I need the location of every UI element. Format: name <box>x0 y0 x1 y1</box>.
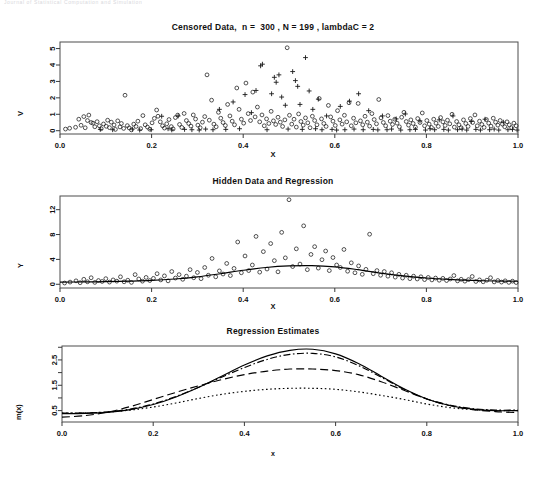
data-point-circle <box>258 270 262 274</box>
data-point-circle <box>242 121 246 125</box>
data-point-circle <box>333 124 337 128</box>
cropped-header-text: Journal of Statistical Computation and S… <box>4 0 142 5</box>
data-point-circle <box>316 266 320 270</box>
data-point-circle <box>331 256 335 260</box>
data-point-circle <box>237 107 241 111</box>
data-point-circle <box>201 120 205 124</box>
data-point-circle <box>261 250 265 254</box>
x-tick-label: 0.0 <box>55 141 65 150</box>
data-point-circle <box>116 119 120 123</box>
data-point-circle <box>320 258 324 262</box>
data-point-circle <box>308 126 312 130</box>
data-point-circle <box>269 109 273 113</box>
x-axis-label-hidden: X <box>0 302 546 311</box>
data-point-circle <box>182 112 186 116</box>
data-point-circle <box>203 266 207 270</box>
data-point-circle <box>205 73 209 77</box>
data-point-circle <box>132 122 136 126</box>
data-point-circle <box>365 120 369 124</box>
data-point-circle <box>272 259 276 263</box>
data-point-circle <box>411 122 415 126</box>
y-tick-label: 0 <box>48 129 57 133</box>
data-point-circle <box>155 108 159 112</box>
data-point-circle <box>302 224 306 228</box>
data-point-circle <box>232 267 236 271</box>
y-tick-label: 8 <box>48 232 57 236</box>
plot-title-hidden: Hidden Data and Regression <box>0 176 546 186</box>
panel-regression-estimates: Regression Estimates m(x) 0.00.20.40.60.… <box>0 324 546 476</box>
data-point-circle <box>95 120 99 124</box>
data-point-circle <box>228 274 232 278</box>
data-point-circle <box>386 114 390 118</box>
data-point-circle <box>342 248 346 252</box>
data-point-circle <box>191 113 195 117</box>
data-point-circle <box>299 120 303 124</box>
data-point-circle <box>155 272 159 276</box>
data-point-circle <box>324 125 328 129</box>
data-point-circle <box>301 123 305 127</box>
data-point-circle <box>400 115 404 119</box>
data-point-circle <box>123 93 127 97</box>
data-point-circle <box>482 126 486 130</box>
data-point-circle <box>375 122 379 126</box>
data-point-circle <box>214 275 218 279</box>
data-point-circle <box>514 124 518 128</box>
data-point-circle <box>83 126 87 130</box>
data-point-circle <box>409 118 413 122</box>
data-point-circle <box>152 116 156 120</box>
data-point-circle <box>357 264 361 268</box>
data-point-circle <box>267 122 271 126</box>
data-point-circle <box>294 247 298 251</box>
data-point-circle <box>258 120 262 124</box>
data-point-circle <box>278 120 282 124</box>
plot-title-censored: Censored Data, n = 300 , N = 199 , lambd… <box>0 22 546 32</box>
data-point-circle <box>281 125 285 129</box>
data-point-circle <box>292 117 296 121</box>
data-point-circle <box>253 115 257 119</box>
data-point-circle <box>287 198 291 202</box>
data-point-circle <box>104 277 108 281</box>
data-point-circle <box>408 277 412 281</box>
data-point-circle <box>446 118 450 122</box>
data-point-circle <box>285 46 289 50</box>
data-point-circle <box>210 257 214 261</box>
data-point-circle <box>230 119 234 123</box>
data-point-circle <box>470 275 474 279</box>
data-point-circle <box>420 111 424 115</box>
data-point-circle <box>177 273 181 277</box>
data-point-circle <box>441 120 445 124</box>
x-tick-label: 0.4 <box>239 429 250 438</box>
data-point-circle <box>87 113 91 117</box>
y-tick-label: 0.5 <box>50 405 59 415</box>
x-tick-label: 1.0 <box>513 141 523 150</box>
data-point-circle <box>167 118 171 122</box>
data-point-circle <box>244 81 248 85</box>
x-tick-label: 1.0 <box>513 429 523 438</box>
data-point-circle <box>163 274 167 278</box>
x-tick-label: 0.2 <box>148 429 158 438</box>
data-point-circle <box>336 109 340 113</box>
data-point-circle <box>194 117 198 121</box>
plot-area-censored: 0.00.20.40.60.81.0012345 <box>0 36 546 164</box>
data-point-circle <box>223 124 227 128</box>
x-tick-label: 0.6 <box>330 429 340 438</box>
data-point-circle <box>188 268 192 272</box>
figure-page: Journal of Statistical Computation and S… <box>0 0 546 488</box>
x-tick-label: 0.4 <box>238 141 249 150</box>
data-point-circle <box>134 125 138 129</box>
plot-frame <box>60 196 518 288</box>
data-point-circle <box>239 271 243 275</box>
data-point-circle <box>144 276 148 280</box>
data-point-circle <box>503 125 507 129</box>
data-point-circle <box>331 119 335 123</box>
data-point-circle <box>368 232 372 236</box>
data-point-circle <box>349 124 353 128</box>
curve-true-curve <box>62 349 518 414</box>
data-point-circle <box>283 118 287 122</box>
data-point-circle <box>269 242 273 246</box>
data-point-circle <box>452 274 456 278</box>
data-point-circle <box>432 117 436 121</box>
data-point-circle <box>404 120 408 124</box>
data-point-circle <box>309 253 313 257</box>
data-point-circle <box>338 118 342 122</box>
